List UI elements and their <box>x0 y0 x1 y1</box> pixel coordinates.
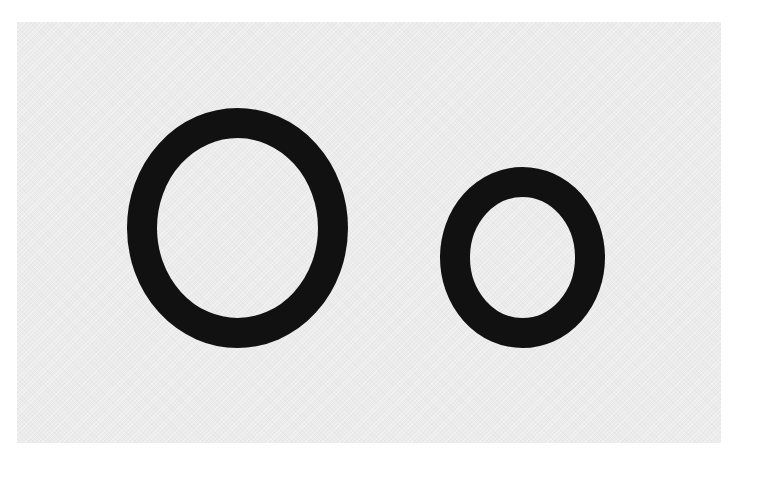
lowercase-o-glyph <box>455 182 590 333</box>
uppercase-o-glyph <box>142 123 333 333</box>
letter-card: Oo <box>17 22 721 443</box>
letter-glyphs <box>17 22 721 443</box>
